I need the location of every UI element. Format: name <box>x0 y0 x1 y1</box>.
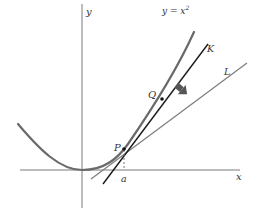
a-tick-label: a <box>121 173 127 184</box>
point-q <box>160 97 164 101</box>
secant-line-k <box>103 44 208 184</box>
y-axis-label: y <box>85 6 92 17</box>
tangent-secant-diagram: y x y = x2 K L Q P a <box>0 0 253 210</box>
point-q-label: Q <box>148 89 156 100</box>
point-p <box>122 147 126 151</box>
curve-label-exponent: 2 <box>184 4 189 11</box>
tangent-label-l: L <box>223 66 230 77</box>
curve-label: y = x2 <box>161 4 189 16</box>
secant-label-k: K <box>206 43 215 54</box>
x-axis-label: x <box>236 171 242 182</box>
motion-arrow-icon <box>173 81 191 99</box>
point-p-label: P <box>113 142 121 153</box>
curve-label-base: y = x <box>161 6 185 16</box>
parabola-curve <box>18 32 194 170</box>
